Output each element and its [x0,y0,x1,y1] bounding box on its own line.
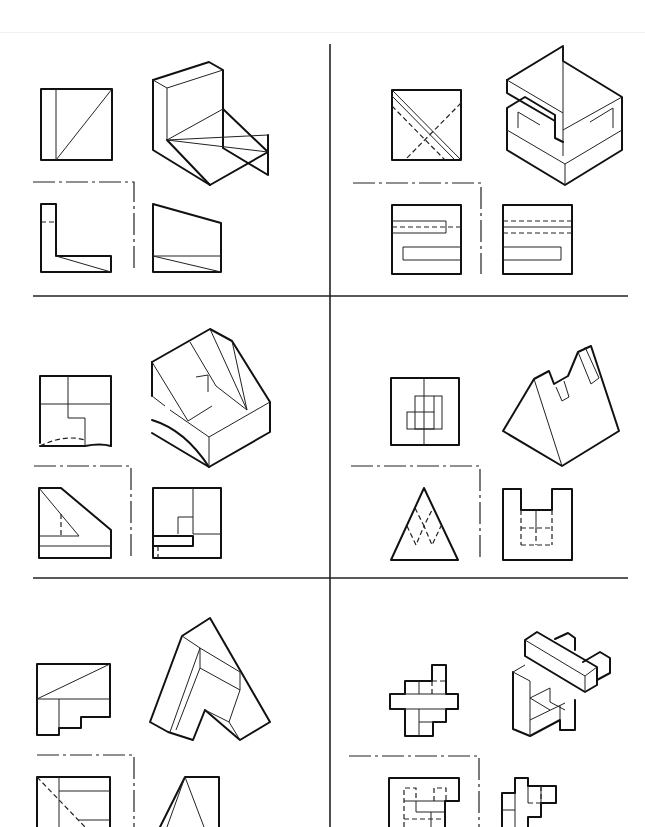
panel-c [34,329,270,558]
panel-e-top-view [37,664,110,735]
panel-d-projection-line [351,466,480,560]
panel-f-side-view [502,778,556,827]
panel-c-side-view [153,488,221,558]
panel-a-side-view [153,204,221,272]
panel-c-front-view [39,488,111,558]
panel-a [33,62,268,272]
panel-b-side-view [503,205,572,274]
drawing-canvas [0,0,645,827]
panel-a-front-view [41,204,111,272]
panel-f-isometric-view [513,632,610,736]
panel-d [351,346,619,560]
panel-d-side-view [503,489,572,560]
panel-c-top-view [40,376,111,446]
panel-d-top-view [391,378,459,445]
panel-f-front-view [389,778,459,827]
panel-grid [33,44,628,827]
panel-a-top-view [41,89,112,160]
panel-a-isometric-view [153,62,268,185]
panel-d-isometric-view [503,346,619,466]
panel-b [353,46,622,274]
panel-e-isometric-view [150,618,270,740]
panel-b-isometric-view [507,46,622,185]
drawing-sheet: Orthographic projection exercises [0,0,645,827]
panel-e-front-view [37,777,110,827]
panel-e [37,618,270,827]
panel-a-projection-line [33,182,134,272]
panel-e-side-view [160,777,219,827]
panel-c-isometric-view [152,329,270,467]
panel-b-front-view [392,205,461,274]
panel-d-front-view [391,488,458,560]
panel-c-projection-line [34,466,131,558]
panel-b-top-view [392,90,461,160]
panel-f-top-view [390,665,458,736]
panel-f [349,632,610,827]
